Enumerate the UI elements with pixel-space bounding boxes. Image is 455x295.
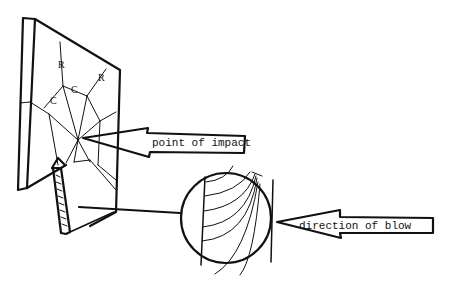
magnifier-leader-line <box>79 207 180 213</box>
point-of-impact-callout: point of impact <box>83 128 251 157</box>
direction-of-blow-callout: direction of blow <box>277 210 433 238</box>
magnified-edge-view <box>181 166 273 275</box>
glass-pane <box>18 18 120 226</box>
fragment-edge <box>52 158 114 234</box>
concentric-crack-label: C <box>50 95 57 106</box>
direction-of-blow-label: direction of blow <box>299 220 412 232</box>
glass-fracture-diagram: R R C C point of impact direction of blo… <box>0 0 455 295</box>
point-of-impact-label: point of impact <box>152 137 251 149</box>
radial-crack-label: R <box>98 72 105 83</box>
crack-lines <box>20 42 116 190</box>
concentric-crack-label: C <box>71 84 78 95</box>
radial-crack-label: R <box>58 59 65 70</box>
